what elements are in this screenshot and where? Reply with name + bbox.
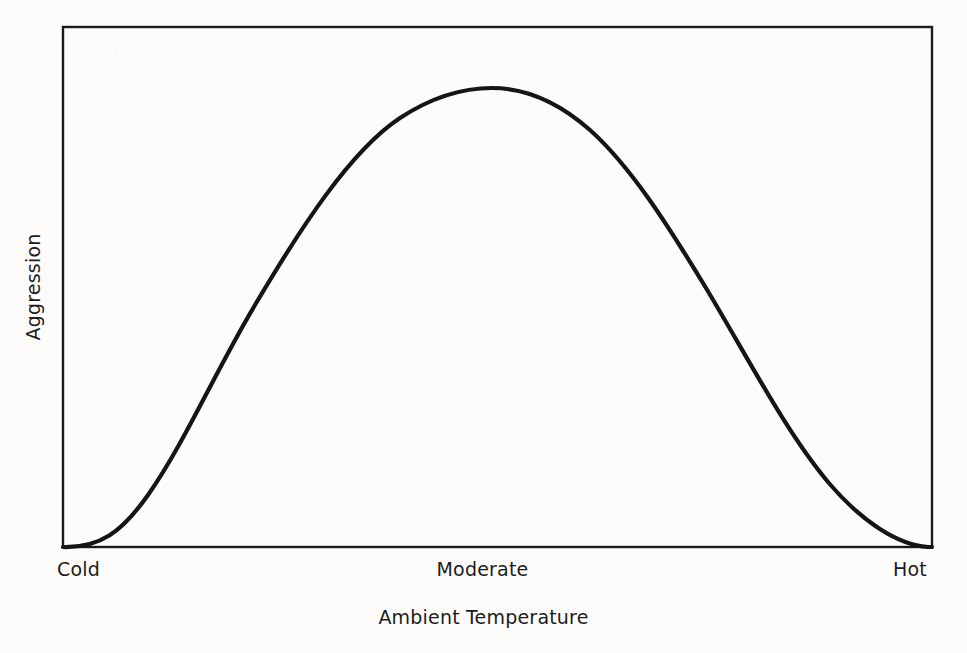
x-tick-label-hot: Hot <box>893 558 927 580</box>
figure-container: Cold Moderate Hot Ambient Temperature Ag… <box>0 0 967 653</box>
y-axis-title: Aggression <box>22 234 44 341</box>
x-axis-title: Ambient Temperature <box>0 606 967 628</box>
aggression-curve-line <box>63 88 932 547</box>
plot-frame-border <box>63 27 932 547</box>
chart-plot-area <box>0 0 967 653</box>
x-tick-label-moderate: Moderate <box>0 558 966 580</box>
